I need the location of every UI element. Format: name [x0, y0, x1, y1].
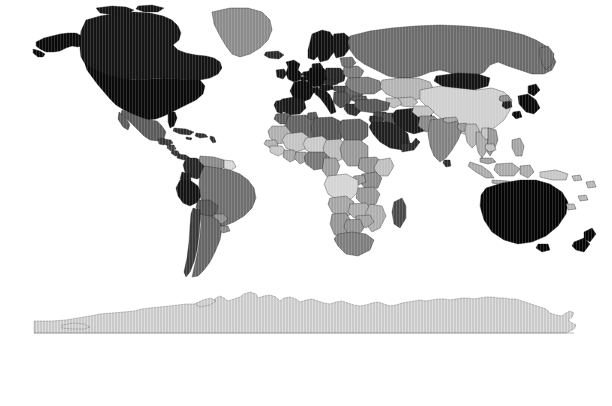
region-egypt — [339, 119, 368, 142]
region-pacific-islands-3 — [578, 195, 588, 201]
region-pacific-islands-1 — [572, 175, 582, 181]
region-pacific-islands-2 — [586, 181, 596, 188]
colorbar-legend: C 5001k1.5k2k2.5k3k — [0, 352, 612, 406]
world-choropleth-map — [0, 0, 612, 285]
antarctica-inset-map — [0, 285, 612, 352]
figure-panel-c: C 5001k1.5k2k2.5k3k — [0, 0, 612, 406]
